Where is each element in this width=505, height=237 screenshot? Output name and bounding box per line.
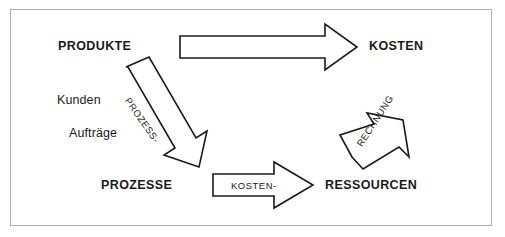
node-label-ressourcen: RESSOURCEN — [325, 179, 417, 192]
edge-label-kosten: KOSTEN- — [231, 181, 277, 191]
diagram-arrows — [0, 0, 505, 237]
node-label-produkte: PRODUKTE — [58, 40, 131, 53]
annotation-label-auftraege: Aufträge — [69, 127, 117, 140]
annotation-label-kunden: Kunden — [57, 94, 101, 107]
node-label-prozesse: PROZESSE — [101, 179, 172, 192]
arrow-produkte-to-kosten — [180, 24, 357, 70]
node-label-kosten: KOSTEN — [369, 40, 424, 53]
diagram-canvas: PRODUKTE KOSTEN PROZESSE RESSOURCEN Kund… — [0, 0, 505, 237]
